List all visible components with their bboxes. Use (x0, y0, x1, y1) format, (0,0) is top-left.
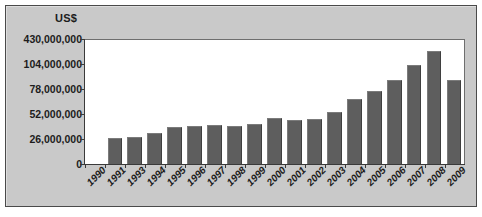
x-axis-label-slot: 1990 (85, 166, 105, 208)
bar[interactable] (347, 99, 362, 164)
x-axis-tick-mark (285, 165, 286, 168)
bar[interactable] (187, 126, 202, 164)
bar-slot (265, 40, 285, 164)
x-axis-tick-mark (425, 165, 426, 168)
bar-slot (344, 40, 364, 164)
x-axis-tick-mark (145, 165, 146, 168)
bar-slot (185, 40, 205, 164)
x-axis-label-slot: 2009 (445, 166, 465, 208)
x-axis-tick-mark (325, 165, 326, 168)
plot-area (85, 39, 465, 164)
x-axis-tick-mark (105, 165, 106, 168)
bars-layer (85, 40, 464, 164)
bar-slot (444, 40, 464, 164)
x-axis-label-slot: 1991 (105, 166, 125, 208)
x-axis-label-slot: 1999 (245, 166, 265, 208)
x-axis-tick-mark (165, 165, 166, 168)
x-axis-tick-mark (305, 165, 306, 168)
bar-slot (85, 40, 105, 164)
bar[interactable] (108, 138, 123, 164)
x-axis-label-slot: 2003 (325, 166, 345, 208)
x-axis-tick-mark (85, 165, 86, 168)
bar[interactable] (427, 51, 442, 164)
x-axis-label-slot: 2001 (285, 166, 305, 208)
bar[interactable] (287, 120, 302, 164)
x-axis-label-slot: 2007 (405, 166, 425, 208)
bar-slot (364, 40, 384, 164)
bar-slot (125, 40, 145, 164)
x-axis-label-slot: 1998 (225, 166, 245, 208)
bar-chart-figure: US$ 430,000,000104,000,00078,000,00052,0… (5, 5, 477, 207)
bar-slot (225, 40, 245, 164)
bar-slot (424, 40, 444, 164)
x-axis-tick-mark (125, 165, 126, 168)
bar[interactable] (307, 119, 322, 164)
x-axis-tick-mark (185, 165, 186, 168)
y-axis-tick-labels: 430,000,000104,000,00078,000,00052,000,0… (6, 6, 85, 206)
x-axis-tick-labels: 1990199119931994199519961997199819992000… (85, 166, 465, 208)
x-axis-label-slot: 1994 (145, 166, 165, 208)
bar-slot (304, 40, 324, 164)
x-axis-tick-mark (405, 165, 406, 168)
x-axis-label-slot: 2008 (425, 166, 445, 208)
bar[interactable] (387, 80, 402, 164)
bar-slot (324, 40, 344, 164)
bar[interactable] (167, 127, 182, 164)
x-axis-tick-mark (265, 165, 266, 168)
x-axis-tick-mark (205, 165, 206, 168)
bar-slot (165, 40, 185, 164)
bar-slot (105, 40, 125, 164)
x-axis-label-slot: 1995 (165, 166, 185, 208)
y-axis-tick-label: 26,000,000 (6, 133, 85, 145)
bar-slot (205, 40, 225, 164)
bar-slot (284, 40, 304, 164)
x-axis-label-slot: 1993 (125, 166, 145, 208)
bar[interactable] (227, 126, 242, 164)
bar-slot (245, 40, 265, 164)
x-axis-tick-mark (345, 165, 346, 168)
bar-slot (384, 40, 404, 164)
y-axis-tick-label: 0 (6, 158, 85, 170)
y-axis-tick-label: 104,000,000 (6, 58, 85, 70)
x-axis-label-slot: 2005 (365, 166, 385, 208)
x-axis-label-slot: 2006 (385, 166, 405, 208)
x-axis-label-slot: 2002 (305, 166, 325, 208)
x-axis-label-slot: 2000 (265, 166, 285, 208)
bar[interactable] (447, 80, 462, 164)
x-axis-tick-mark (225, 165, 226, 168)
y-axis-tick-label: 78,000,000 (6, 83, 85, 95)
x-axis-label-slot: 1997 (205, 166, 225, 208)
x-axis-tick-mark (445, 165, 446, 168)
bar[interactable] (147, 133, 162, 164)
bar[interactable] (367, 91, 382, 164)
y-axis-tick-label: 52,000,000 (6, 108, 85, 120)
x-axis-tick-label: 2009 (444, 164, 468, 188)
bar[interactable] (327, 112, 342, 164)
bar[interactable] (267, 118, 282, 164)
bar-slot (404, 40, 424, 164)
x-axis-tick-mark (245, 165, 246, 168)
bar[interactable] (407, 65, 422, 164)
x-axis-tick-mark (385, 165, 386, 168)
y-axis-tick-label: 430,000,000 (6, 33, 85, 45)
x-axis-label-slot: 2004 (345, 166, 365, 208)
x-axis-label-slot: 1996 (185, 166, 205, 208)
bar[interactable] (247, 124, 262, 164)
bar[interactable] (207, 125, 222, 164)
x-axis-tick-mark (365, 165, 366, 168)
bar[interactable] (127, 137, 142, 164)
bar-slot (145, 40, 165, 164)
